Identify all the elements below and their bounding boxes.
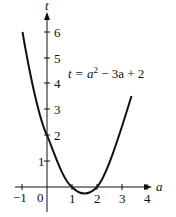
a-tick-1: 1 <box>69 191 76 206</box>
a-axis-arrow-icon <box>144 184 152 190</box>
t-tick-4: 4 <box>54 76 61 91</box>
a-tick-4: 4 <box>144 191 151 206</box>
t-tick-5: 5 <box>54 51 61 66</box>
a-tick-neg1: −1 <box>13 190 27 205</box>
t-tick-6: 6 <box>54 25 61 40</box>
t-axis-arrow-icon <box>44 12 50 20</box>
a-tick-2: 2 <box>94 191 101 206</box>
parabola-chart: −1 0 1 2 3 4 1 2 3 4 5 6 a t t = a2 − 3a… <box>0 0 176 217</box>
a-tick-3: 3 <box>119 191 126 206</box>
equation-label: t = a2 − 3a + 2 <box>68 65 144 81</box>
t-tick-2: 2 <box>54 128 61 143</box>
origin-label: 0 <box>37 190 44 205</box>
parabola-curve <box>23 32 132 194</box>
t-axis-label: t <box>45 0 49 13</box>
a-axis-label: a <box>156 179 163 194</box>
t-tick-1: 1 <box>38 154 45 169</box>
t-tick-3: 3 <box>54 102 61 117</box>
